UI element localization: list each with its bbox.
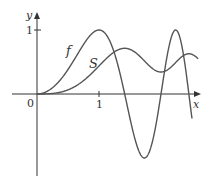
y-axis-label: y xyxy=(25,9,33,22)
x-axis-arrow-icon xyxy=(194,91,201,97)
x-tick-label: 1 xyxy=(96,98,103,111)
curve-f-label: f xyxy=(65,43,73,58)
y-tick-label: 1 xyxy=(26,24,33,37)
y-axis-arrow-icon xyxy=(34,12,40,19)
x-axis-label: x xyxy=(193,98,200,111)
curve-s-label: S xyxy=(89,56,98,71)
curve-s xyxy=(37,48,198,94)
fresnel-chart: 0 1 1 x y f S xyxy=(0,0,211,180)
origin-label: 0 xyxy=(27,97,34,110)
